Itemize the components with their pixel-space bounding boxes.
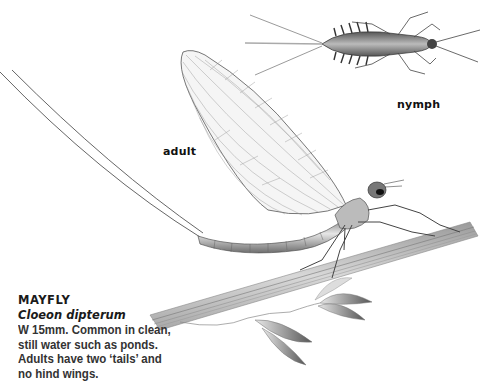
species-scientific-name: Cloeon dipterum	[18, 308, 208, 323]
description-line: W 15mm. Common in clean,	[18, 323, 202, 338]
species-common-name: MAYFLY	[18, 293, 208, 308]
nymph-label: nymph	[397, 98, 440, 111]
mayfly-nymph	[245, 12, 480, 75]
adult-label: adult	[163, 145, 196, 158]
description-line: no hind wings.	[18, 367, 202, 382]
description-line: still water such as ponds.	[18, 338, 202, 353]
description-line: Adults have two ‘tails’ and	[18, 352, 202, 367]
adult-wing	[181, 51, 346, 215]
illustration-canvas: adult nymph MAYFLY Cloeon dipterum W 15m…	[0, 0, 494, 383]
species-caption: MAYFLY Cloeon dipterum W 15mm. Common in…	[18, 293, 208, 381]
species-description: W 15mm. Common in clean, still water suc…	[18, 323, 202, 381]
